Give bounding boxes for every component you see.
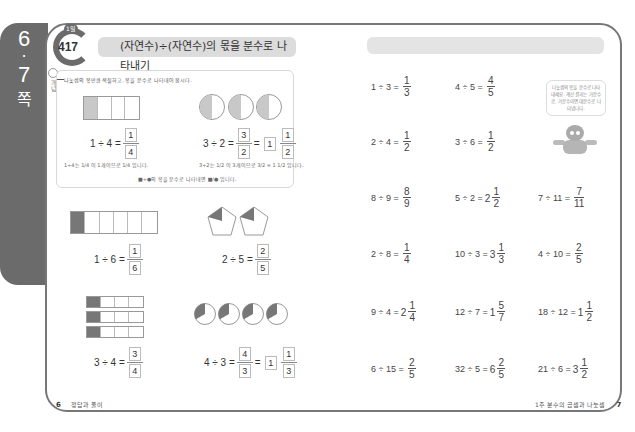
problem-9: 10 ÷ 3 =313 (455, 243, 505, 265)
denominator-box: 4 (129, 364, 141, 378)
example-note-1: 1÷4는 1/4 이 1개이므로 1/4 입니다. (64, 161, 148, 168)
numerator-box: 1 (282, 128, 294, 142)
bar-cell-shaded (84, 97, 98, 119)
example-equation-2: 3 ÷ 2 = 3 2 = 1 1 2 (203, 128, 296, 159)
mascot-head-icon (566, 125, 584, 141)
bar-model-sixths (70, 211, 158, 234)
example-equation-1: 1 ÷ 4 = 1 4 (90, 128, 139, 159)
expression: 3 ÷ 2 = (203, 138, 234, 149)
problem-12: 12 ÷ 7 =157 (455, 301, 505, 323)
footer-left: 6 정답과 풀이 (56, 400, 103, 409)
numerator-box: 3 (129, 347, 141, 361)
problem-8: 2 ÷ 8 =14 (371, 243, 411, 265)
problem-13: 18 ÷ 12 =112 (538, 301, 593, 323)
answer-fraction: 4 3 (237, 347, 253, 378)
numerator-box: 1 (125, 128, 137, 142)
whole-number-box: 1 (264, 137, 276, 151)
exercise-3-equation: 3 ÷ 4 = 3 4 (94, 347, 143, 378)
circle-halves (256, 94, 282, 120)
problem-6: 5 ÷ 2 =212 (455, 187, 500, 209)
bar-cell (98, 97, 112, 119)
denominator-box: 5 (257, 261, 269, 275)
numerator-box: 3 (238, 128, 250, 142)
page-end: 7 (0, 63, 48, 87)
page-range-tab: 6 · 7 쪽 (0, 23, 48, 285)
mascot-eye-icon (576, 131, 580, 135)
expression: 3 ÷ 4 = (94, 357, 125, 368)
expression: 1 ÷ 6 = (94, 254, 125, 265)
answer-fraction: 3 4 (127, 347, 143, 378)
denominator-box: 3 (283, 364, 295, 378)
numerator-box: 2 (257, 244, 269, 258)
instruction-pointer-line (57, 79, 64, 80)
whole-number-box: 1 (265, 356, 277, 370)
mascot-speech-bubble: 나눗셈의 몫을 분수로 나타내세요. 계산 결과는 가분수로, 가분수이면 대분… (546, 80, 606, 116)
left-page-number: 6 (56, 401, 61, 409)
denominator-box: 4 (125, 145, 137, 159)
right-page-number: 7 (616, 401, 621, 409)
bar-model-quarter-row (86, 296, 144, 308)
circle-halves (199, 94, 225, 120)
problem-4: 3 ÷ 6 =12 (455, 131, 495, 153)
exercise-4-equation: 4 ÷ 3 = 4 3 = 1 1 3 (204, 347, 297, 378)
answer-fraction: 1 4 (123, 128, 139, 159)
lesson-title-bar: (자연수)÷(자연수)의 몫을 분수로 나타내기 (98, 37, 296, 57)
problem-5: 8 ÷ 9 =89 (371, 187, 411, 209)
problem-11: 9 ÷ 4 =214 (371, 301, 416, 323)
denominator-box: 6 (129, 261, 141, 275)
example-summary: ■÷●의 몫을 분수로 나타내면 ■/● 입니다. (138, 175, 237, 182)
footer-right: 1주 분수의 곱셈과 나눗셈 7 (535, 400, 621, 409)
answer-fraction: 2 5 (255, 244, 271, 275)
problem-10: 4 ÷ 10 =25 (538, 243, 583, 265)
expression: 1 ÷ 4 = (90, 138, 121, 149)
bar-cell (125, 97, 139, 119)
bar-cell (112, 97, 126, 119)
problem-7: 7 ÷ 11 =711 (538, 187, 584, 209)
problem-3: 2 ÷ 4 =12 (371, 131, 411, 153)
bar-model-quarter-row (86, 311, 144, 323)
exercise-2-equation: 2 ÷ 5 = 2 5 (222, 244, 271, 275)
day-label: 1일 (64, 24, 78, 34)
answer-fraction: 1 6 (127, 244, 143, 275)
pentagon-models (206, 205, 270, 237)
mixed-fraction: 1 3 (281, 347, 297, 378)
mixed-fraction: 1 2 (280, 128, 296, 159)
answer-fraction: 3 2 (236, 128, 252, 159)
expression: 4 ÷ 3 = (204, 357, 235, 368)
numerator-box: 1 (129, 244, 141, 258)
denominator-box: 3 (239, 364, 251, 378)
left-footer-label: 정답과 풀이 (71, 401, 103, 408)
exercise-1-equation: 1 ÷ 6 = 1 6 (94, 244, 143, 275)
expression: 2 ÷ 5 = (222, 254, 253, 265)
circle-thirds-models (193, 302, 289, 326)
bar-model-quarters (83, 96, 140, 120)
right-footer-label: 1주 분수의 곱셈과 나눗셈 (535, 401, 605, 408)
bar-model-quarter-row (86, 326, 144, 338)
example-instruction: 나눗셈의 몫만큼 색칠하고, 몫을 분수로 나타내어 봅시다. (64, 76, 192, 83)
circle-halves (228, 94, 254, 120)
mascot-eye-icon (570, 131, 574, 135)
problem-1: 1 ÷ 3 =13 (371, 76, 411, 98)
problem-2: 4 ÷ 5 =45 (455, 76, 495, 98)
numerator-box: 1 (283, 347, 295, 361)
problem-16: 21 ÷ 6 =312 (538, 358, 588, 380)
mascot-body-icon (563, 140, 587, 154)
example-note-2: 3÷2는 1/2 이 3개이므로 3/2 = 1 1/2 입니다. (199, 161, 304, 168)
denominator-box: 2 (238, 145, 250, 159)
lesson-number: 417 (58, 40, 78, 54)
numerator-box: 4 (239, 347, 251, 361)
denominator-box: 2 (282, 145, 294, 159)
right-header-bar (367, 37, 604, 54)
problem-15: 32 ÷ 5 =625 (455, 358, 505, 380)
page-unit-label: 쪽 (0, 89, 48, 111)
problem-14: 6 ÷ 15 =25 (371, 358, 416, 380)
